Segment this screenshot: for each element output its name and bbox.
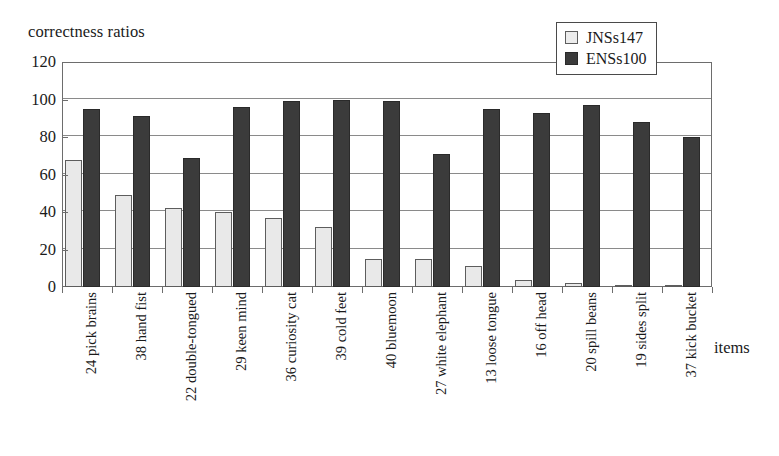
x-axis-category-label: 29 keen mind xyxy=(234,292,249,371)
bar xyxy=(583,105,600,287)
bar-group xyxy=(462,62,512,287)
bar-group xyxy=(262,62,312,287)
bar xyxy=(115,195,132,287)
bar-group xyxy=(562,62,612,287)
bars-layer xyxy=(62,62,712,287)
bar-group xyxy=(162,62,212,287)
y-axis-tick-labels: 020406080100120 xyxy=(0,62,56,287)
y-axis-tick-label: 40 xyxy=(40,204,57,221)
y-axis-tick-label: 0 xyxy=(48,279,56,296)
x-axis-category-label: 38 hand fist xyxy=(134,292,149,360)
y-axis-tick-label: 80 xyxy=(40,129,57,146)
bar xyxy=(65,160,82,288)
bar xyxy=(315,227,332,287)
bar xyxy=(133,116,150,287)
x-axis-category-label: 39 cold feet xyxy=(334,292,349,360)
bar-group xyxy=(212,62,262,287)
x-axis-category-label: 13 loose tongue xyxy=(484,292,499,384)
bar xyxy=(283,101,300,287)
bar xyxy=(83,109,100,287)
x-axis-category-label: 19 sides split xyxy=(634,292,649,368)
bar xyxy=(633,122,650,287)
x-axis-title: items xyxy=(714,338,750,358)
dark-square-swatch-icon xyxy=(565,52,578,65)
x-axis-category-label: 16 off head xyxy=(534,292,549,358)
bar-group xyxy=(612,62,662,287)
legend-item[interactable]: JNSs147 xyxy=(565,27,646,48)
x-axis-category-label: 27 white elephant xyxy=(434,292,449,395)
x-axis-category-labels: 24 pick brains38 hand fist22 double-tong… xyxy=(62,292,712,456)
x-axis-tick-mark xyxy=(712,287,713,293)
bar xyxy=(515,280,532,288)
y-axis-tick-label: 20 xyxy=(40,241,57,258)
bar-group xyxy=(512,62,562,287)
x-axis-category-label: 24 pick brains xyxy=(84,292,99,374)
y-axis-tick-label: 100 xyxy=(31,91,56,108)
x-axis-category-label: 40 bluemoon xyxy=(384,292,399,368)
bar-group xyxy=(362,62,412,287)
bar-group xyxy=(62,62,112,287)
bar xyxy=(165,208,182,287)
bar xyxy=(233,107,250,287)
bar xyxy=(683,137,700,287)
bar-chart: correctness ratios 020406080100120 24 pi… xyxy=(0,0,779,456)
bar xyxy=(215,212,232,287)
y-axis-tick-mark xyxy=(62,100,68,101)
y-axis-tick-mark xyxy=(62,175,68,176)
bar xyxy=(483,109,500,287)
x-axis-category-label: 36 curiosity cat xyxy=(284,292,299,381)
x-axis-category-label: 37 kick bucket xyxy=(684,292,699,377)
bar xyxy=(465,266,482,287)
bar xyxy=(533,113,550,287)
y-axis-tick-mark xyxy=(62,212,68,213)
bar xyxy=(265,218,282,287)
bar xyxy=(383,101,400,287)
y-axis-tick-label: 60 xyxy=(40,166,57,183)
bar xyxy=(183,158,200,287)
y-axis-tick-mark xyxy=(62,250,68,251)
legend-item-label: ENSs100 xyxy=(586,51,646,67)
y-axis-title: correctness ratios xyxy=(28,22,145,42)
y-axis-tick-label: 120 xyxy=(31,54,56,71)
y-axis-tick-mark xyxy=(62,137,68,138)
bar xyxy=(333,100,350,288)
bar-group xyxy=(312,62,362,287)
x-axis-category-label: 22 double-tongued xyxy=(184,292,199,401)
legend-item[interactable]: ENSs100 xyxy=(565,48,646,69)
bar xyxy=(415,259,432,287)
bar-group xyxy=(662,62,712,287)
legend-item-label: JNSs147 xyxy=(586,30,643,46)
bar xyxy=(433,154,450,287)
light-square-swatch-icon xyxy=(565,31,578,44)
x-axis-category-label: 20 spill beans xyxy=(584,292,599,372)
bar-group xyxy=(112,62,162,287)
bar xyxy=(365,259,382,287)
chart-legend: JNSs147 ENSs100 xyxy=(556,22,657,75)
bar-group xyxy=(412,62,462,287)
